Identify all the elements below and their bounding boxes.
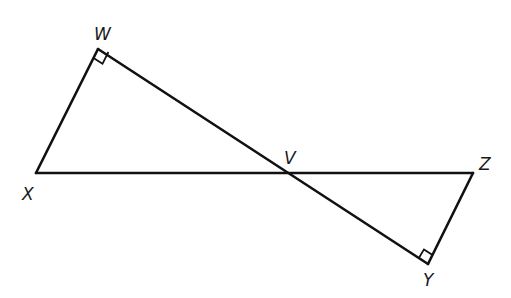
segment-wy <box>98 49 428 264</box>
segment-zy <box>428 173 473 264</box>
label-x: X <box>21 184 34 204</box>
label-v: V <box>284 148 297 168</box>
geometry-diagram: W X V Z Y <box>0 0 511 298</box>
label-w: W <box>94 24 112 44</box>
segment-xw <box>36 49 98 173</box>
label-z: Z <box>478 154 491 174</box>
label-y: Y <box>423 270 435 290</box>
